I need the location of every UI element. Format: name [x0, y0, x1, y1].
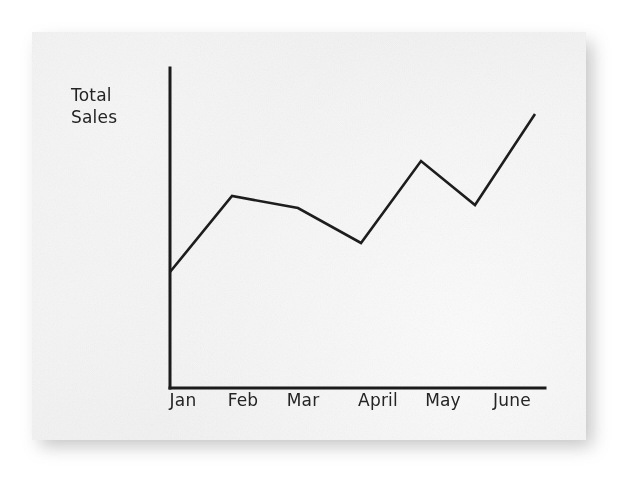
chart-figure: Total Sales JanFebMarAprilMayJune — [0, 0, 631, 481]
x-tick-label-feb: Feb — [228, 390, 259, 410]
x-tick-label-jan: Jan — [170, 390, 197, 410]
x-tick-label-april: April — [358, 390, 398, 410]
total-sales-line — [170, 114, 535, 272]
x-tick-label-june: June — [493, 390, 531, 410]
x-tick-label-may: May — [425, 390, 461, 410]
y-axis-title: Total Sales — [71, 84, 117, 128]
x-tick-label-mar: Mar — [287, 390, 320, 410]
